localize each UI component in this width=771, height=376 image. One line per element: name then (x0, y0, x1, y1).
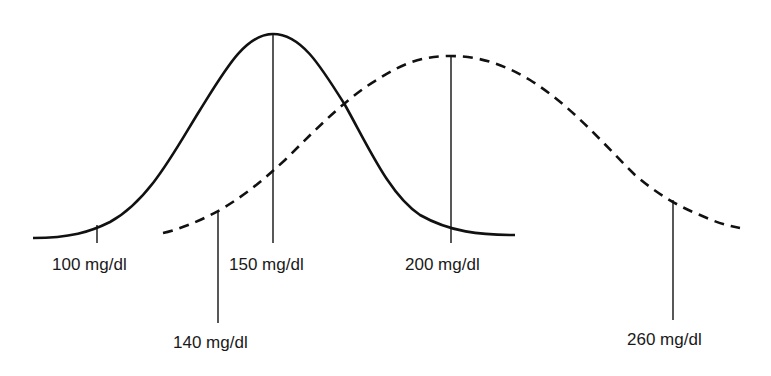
label-100: 100 mg/dl (52, 255, 127, 274)
label-200: 200 mg/dl (405, 255, 480, 274)
label-150: 150 mg/dl (229, 255, 304, 274)
distribution-diagram: 100 mg/dl 150 mg/dl 200 mg/dl 140 mg/dl … (0, 0, 771, 376)
solid-distribution-curve (33, 34, 515, 238)
label-260: 260 mg/dl (627, 330, 702, 349)
label-140: 140 mg/dl (173, 333, 248, 352)
